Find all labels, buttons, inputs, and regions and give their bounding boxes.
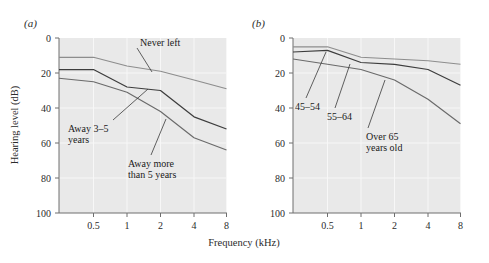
panel-b-x-tick-labels: 0.5 1 2 4 8 <box>321 220 463 231</box>
y-tick-label: 20 <box>275 68 285 79</box>
y-tick-label: 40 <box>41 103 51 114</box>
y-tick-label: 0 <box>46 33 51 44</box>
x-tick-label: 4 <box>426 220 431 231</box>
y-tick-label: 100 <box>36 208 51 219</box>
panel-b-label: (b) <box>252 17 265 30</box>
x-tick-label: 0.5 <box>321 220 334 231</box>
panel-b-annotation-55-64: 55–64 <box>327 111 352 122</box>
panel-b-plot-background <box>293 38 461 213</box>
panel-b-y-tick-labels: 0 20 40 60 80 100 <box>270 33 285 219</box>
y-tick-label: 80 <box>275 173 285 184</box>
panel-a-y-ticks <box>55 38 59 213</box>
panel-b-annotation-over-65-line2: years old <box>366 142 402 153</box>
x-tick-label: 2 <box>158 220 163 231</box>
x-tick-label: 2 <box>392 220 397 231</box>
panel-a-label: (a) <box>24 17 37 30</box>
panel-b: (b) <box>252 17 463 231</box>
panel-a: (a) <box>9 17 229 231</box>
panel-a-x-tick-labels: 0.5 1 2 4 8 <box>87 220 229 231</box>
panel-a-y-axis-title: Hearing level (dB) <box>9 85 21 164</box>
panel-a-y-tick-labels: 0 20 40 60 80 100 <box>36 33 51 219</box>
y-tick-label: 40 <box>275 103 285 114</box>
x-tick-label: 8 <box>224 220 229 231</box>
panel-a-annotation-away-3-5-years-line1: Away 3–5 <box>68 123 108 134</box>
x-tick-label: 4 <box>192 220 197 231</box>
shared-x-axis-title: Frequency (kHz) <box>208 237 280 249</box>
figure-container: (a) <box>0 0 489 263</box>
x-tick-label: 0.5 <box>87 220 100 231</box>
panel-b-annotation-45-54: 45–54 <box>295 101 320 112</box>
y-tick-label: 100 <box>270 208 285 219</box>
panel-a-annotation-never-left: Never left <box>140 37 180 48</box>
y-tick-label: 60 <box>275 138 285 149</box>
panel-a-annotation-away-more-line2: than 5 years <box>128 169 176 180</box>
y-tick-label: 60 <box>41 138 51 149</box>
y-tick-label: 0 <box>280 33 285 44</box>
y-tick-label: 20 <box>41 68 51 79</box>
y-tick-label: 80 <box>41 173 51 184</box>
panel-a-annotation-away-3-5-years-line2: years <box>68 134 89 145</box>
x-tick-label: 1 <box>125 220 130 231</box>
panel-b-x-ticks <box>328 213 461 217</box>
x-tick-label: 1 <box>359 220 364 231</box>
panel-b-y-ticks <box>289 38 293 213</box>
panel-a-annotation-away-more-line1: Away more <box>128 158 175 169</box>
panel-b-annotation-over-65-line1: Over 65 <box>366 131 399 142</box>
hearing-level-figure: (a) <box>0 0 489 263</box>
x-tick-label: 8 <box>458 220 463 231</box>
panel-a-x-ticks <box>94 213 227 217</box>
